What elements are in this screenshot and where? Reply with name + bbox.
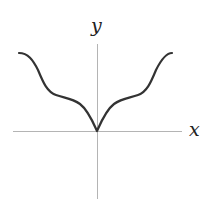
function-graph: y x xyxy=(0,0,206,201)
function-curve xyxy=(19,53,172,131)
y-axis-label: y xyxy=(90,14,102,36)
graph-canvas: y x xyxy=(0,0,206,201)
x-axis-label: x xyxy=(189,118,200,140)
